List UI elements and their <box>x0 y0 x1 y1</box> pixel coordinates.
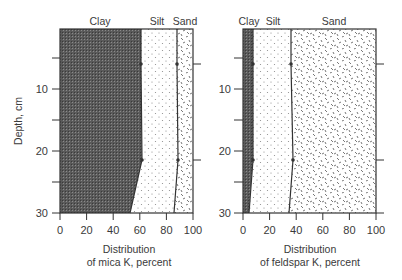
x-tick-label: 60 <box>317 224 329 236</box>
sample-point <box>176 158 180 162</box>
y-tick-label: 20 <box>36 145 48 157</box>
silt-label: Silt <box>150 15 165 27</box>
silt-area <box>249 29 293 213</box>
legend-labels: Clay Silt Sand <box>89 15 197 27</box>
y-tick-labels: 10 20 30 <box>36 83 48 219</box>
clay-label: Clay <box>238 15 260 27</box>
y-tick-label: 10 <box>36 83 48 95</box>
y-tick-label: 30 <box>36 207 48 219</box>
silt-label: Silt <box>266 15 281 27</box>
sample-point <box>140 158 144 162</box>
x-axis-label-line1: Distribution <box>103 243 156 255</box>
y-tick-label: 30 <box>219 207 231 219</box>
feldspar-panel: 10 20 30 0 20 40 60 80 100 Clay Silt San… <box>219 15 385 268</box>
x-tick-labels: 0 20 40 60 80 100 <box>240 224 385 236</box>
sample-point <box>251 158 255 162</box>
sand-area <box>289 29 376 213</box>
x-tick-label: 0 <box>57 224 63 236</box>
sample-point <box>251 62 255 66</box>
x-tick-label: 100 <box>367 224 385 236</box>
x-tick-label: 20 <box>80 224 92 236</box>
y-axis-label: Depth, cm <box>12 97 24 145</box>
y-tick-label: 10 <box>219 83 231 95</box>
x-tick-label: 100 <box>184 224 202 236</box>
sand-label: Sand <box>322 15 347 27</box>
sample-point <box>291 158 295 162</box>
x-axis-label-line2: of feldspar K, percent <box>260 256 360 268</box>
x-axis-label-line1: Distribution <box>284 243 337 255</box>
chart-figure: 10 20 30 0 20 40 60 80 100 Clay Silt San… <box>0 0 402 280</box>
x-tick-label: 80 <box>343 224 355 236</box>
x-axis-label-line2: of mica K, percent <box>87 256 172 268</box>
clay-label: Clay <box>89 15 111 27</box>
x-tick-label: 40 <box>107 224 119 236</box>
legend-labels: Clay Silt Sand <box>238 15 346 27</box>
mica-panel: 10 20 30 0 20 40 60 80 100 Clay Silt San… <box>12 15 202 268</box>
sample-point <box>289 62 293 66</box>
sample-point <box>175 62 179 66</box>
x-tick-labels: 0 20 40 60 80 100 <box>57 224 202 236</box>
y-tick-labels: 10 20 30 <box>219 83 231 219</box>
x-tick-label: 60 <box>134 224 146 236</box>
x-tick-label: 40 <box>290 224 302 236</box>
y-tick-label: 20 <box>219 145 231 157</box>
clay-area <box>60 29 142 213</box>
x-tick-label: 20 <box>263 224 275 236</box>
x-tick-label: 80 <box>160 224 172 236</box>
sample-point <box>139 62 143 66</box>
x-tick-label: 0 <box>240 224 246 236</box>
sand-label: Sand <box>173 15 198 27</box>
